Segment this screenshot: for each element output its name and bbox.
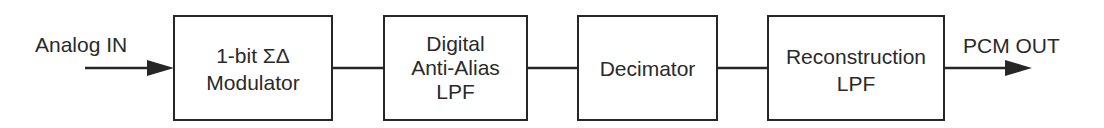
block-anti-alias-line-2: Anti-Alias (411, 56, 500, 80)
block-modulator-line-1: 1-bit ΣΔ (216, 42, 290, 69)
block-anti-alias-line-3: LPF (436, 80, 475, 104)
input-label: Analog IN (35, 33, 127, 57)
output-label: PCM OUT (963, 34, 1060, 58)
block-reconstruction-line-2: LPF (837, 70, 876, 97)
block-reconstruction-line-1: Reconstruction (786, 43, 926, 70)
block-anti-alias-lpf: Digital Anti-Alias LPF (383, 15, 528, 121)
block-decimator: Decimator (577, 15, 718, 121)
block-decimator-line-1: Decimator (600, 55, 696, 82)
block-modulator-line-2: Modulator (206, 69, 299, 96)
sigma-delta-adc-block-diagram: Analog IN 1-bit ΣΔ Modulator Digital Ant… (0, 0, 1104, 128)
block-reconstruction-lpf: Reconstruction LPF (767, 15, 945, 121)
block-modulator: 1-bit ΣΔ Modulator (173, 15, 333, 121)
block-anti-alias-line-1: Digital (426, 32, 484, 56)
output-arrow-icon (944, 60, 1032, 76)
input-arrow-icon (85, 60, 174, 76)
